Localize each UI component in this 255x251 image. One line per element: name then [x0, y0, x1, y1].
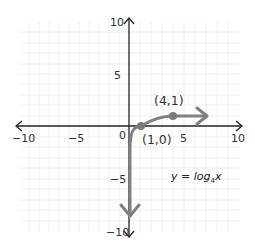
y-tick-neg10: −10 [106, 226, 129, 239]
x-tick-neg10: −10 [12, 132, 35, 145]
y-tick-10: 10 [110, 16, 124, 29]
function-label: y = log4x [170, 170, 222, 185]
origin-label: 0 [119, 129, 126, 142]
point-4-1 [169, 112, 177, 120]
x-tick-5: 5 [180, 132, 187, 145]
point-1-0 [137, 122, 145, 130]
eq-prefix: y = log [170, 170, 211, 183]
log-graph: −10 −5 0 5 10 10 5 −5 −10 (4,1) (1,0) y … [0, 0, 255, 251]
eq-var: x [214, 170, 222, 183]
y-tick-neg5: −5 [110, 173, 126, 186]
point-label-1-0: (1,0) [142, 132, 172, 147]
x-tick-neg5: −5 [68, 132, 84, 145]
point-label-4-1: (4,1) [154, 93, 184, 108]
x-tick-10: 10 [231, 132, 245, 145]
y-tick-5: 5 [114, 69, 121, 82]
